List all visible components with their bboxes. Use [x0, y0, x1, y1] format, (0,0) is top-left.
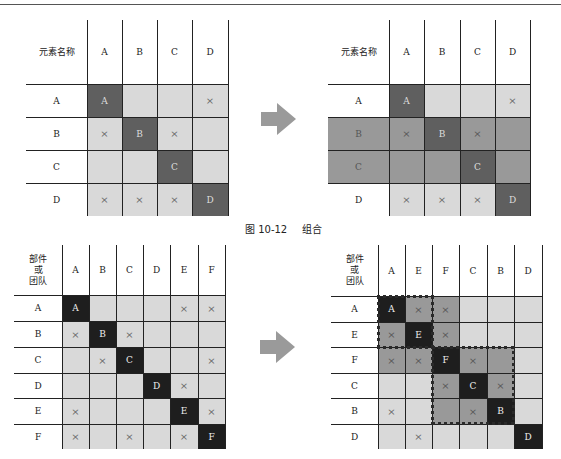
matrix-cell: [122, 150, 157, 183]
corner-label: 部件 或 团队: [331, 245, 378, 296]
dependency-mark: ×: [495, 84, 530, 117]
matrix-cell: [143, 398, 170, 424]
column-header: B: [89, 245, 116, 295]
row-header: B: [26, 117, 87, 150]
dependency-mark: ×: [170, 373, 198, 398]
matrix-cell: [487, 424, 514, 449]
row-header: C: [331, 373, 378, 398]
grid-line-vertical: [424, 20, 425, 216]
column-header: A: [62, 245, 89, 295]
grid-line-vertical: [228, 20, 229, 216]
dependency-mark: ×: [460, 117, 495, 150]
diagonal-cell: D: [495, 183, 530, 216]
diagonal-cell: E: [170, 398, 198, 424]
grid-line-horizontal: [26, 150, 228, 151]
matrix-cell: [495, 117, 530, 150]
column-header: F: [198, 245, 225, 295]
row-header: D: [14, 373, 62, 398]
column-header: D: [495, 20, 530, 84]
corner-label: 元素名称: [26, 20, 87, 84]
column-header: B: [487, 245, 514, 296]
matrix-cell: [514, 398, 542, 424]
grid-line-horizontal: [331, 296, 542, 297]
diagonal-cell: C: [116, 347, 143, 373]
row-header: C: [14, 347, 62, 373]
dependency-mark: ×: [405, 347, 432, 373]
matrix-cell: [143, 295, 170, 321]
matrix-cell: [424, 150, 460, 183]
grid-line-horizontal: [14, 347, 225, 348]
matrix-cell: [459, 322, 487, 347]
figure-title: 组合: [302, 224, 322, 235]
dependency-mark: ×: [389, 117, 424, 150]
diagonal-cell: B: [487, 398, 514, 424]
row-header: C: [328, 150, 389, 183]
grid-line-horizontal: [14, 424, 225, 425]
grid-line-horizontal: [328, 84, 530, 85]
figure-number: 图 10-12: [245, 224, 287, 235]
grid-line-vertical: [192, 20, 193, 216]
diagonal-cell: A: [87, 84, 122, 117]
matrix-cell: [192, 117, 228, 150]
row-header: E: [14, 398, 62, 424]
column-header: E: [170, 245, 198, 295]
row-header: D: [328, 183, 389, 216]
grid-line-vertical: [542, 245, 543, 449]
dependency-mark: ×: [405, 424, 432, 449]
dependency-mark: ×: [378, 398, 405, 424]
matrix-cell: [143, 424, 170, 449]
column-header: A: [389, 20, 424, 84]
column-header: C: [116, 245, 143, 295]
grid-line-vertical: [460, 20, 461, 216]
dependency-mark: ×: [62, 321, 89, 347]
grid-line-horizontal: [331, 347, 542, 348]
dependency-mark: ×: [487, 373, 514, 398]
grid-line-horizontal: [14, 373, 225, 374]
matrix-cell: [116, 373, 143, 398]
column-header: A: [87, 20, 122, 84]
matrix-cell: [143, 321, 170, 347]
diagonal-cell: D: [143, 373, 170, 398]
dependency-mark: ×: [170, 424, 198, 449]
grid-line-horizontal: [26, 117, 228, 118]
arrow-right-icon: [261, 103, 297, 136]
matrix-cell: [192, 150, 228, 183]
column-header: B: [122, 20, 157, 84]
matrix-cell: [116, 295, 143, 321]
dependency-mark: ×: [389, 183, 424, 216]
diagonal-cell: B: [424, 117, 460, 150]
matrix-cell: [514, 347, 542, 373]
matrix-cell: [487, 322, 514, 347]
dependency-mark: ×: [170, 295, 198, 321]
corner-label: 部件 或 团队: [14, 245, 62, 295]
matrix-cell: [87, 150, 122, 183]
diagonal-cell: B: [89, 321, 116, 347]
grid-line-horizontal: [14, 295, 225, 296]
matrix-cell: [170, 321, 198, 347]
diagonal-cell: A: [378, 296, 405, 322]
dependency-mark: ×: [378, 322, 405, 347]
grid-line-horizontal: [26, 84, 228, 85]
matrix-cell: [198, 321, 225, 347]
grid-line-vertical: [225, 245, 226, 449]
matrix-cell: [514, 322, 542, 347]
column-header: C: [459, 245, 487, 296]
column-header: C: [157, 20, 192, 84]
row-header: D: [331, 424, 378, 449]
matrix-cell: [378, 373, 405, 398]
grid-line-horizontal: [14, 398, 225, 399]
matrix-cell: [459, 296, 487, 322]
row-header: C: [26, 150, 87, 183]
matrix-cell: [459, 424, 487, 449]
dependency-mark: ×: [432, 322, 459, 347]
dependency-mark: ×: [460, 183, 495, 216]
diagonal-cell: F: [198, 424, 225, 449]
row-header: F: [331, 347, 378, 373]
dependency-mark: ×: [122, 183, 157, 216]
row-header: D: [26, 183, 87, 216]
grid-line-vertical: [157, 20, 158, 216]
grid-line-horizontal: [328, 150, 530, 151]
dependency-mark: ×: [405, 296, 432, 322]
diagonal-cell: C: [459, 373, 487, 398]
diagonal-cell: A: [62, 295, 89, 321]
